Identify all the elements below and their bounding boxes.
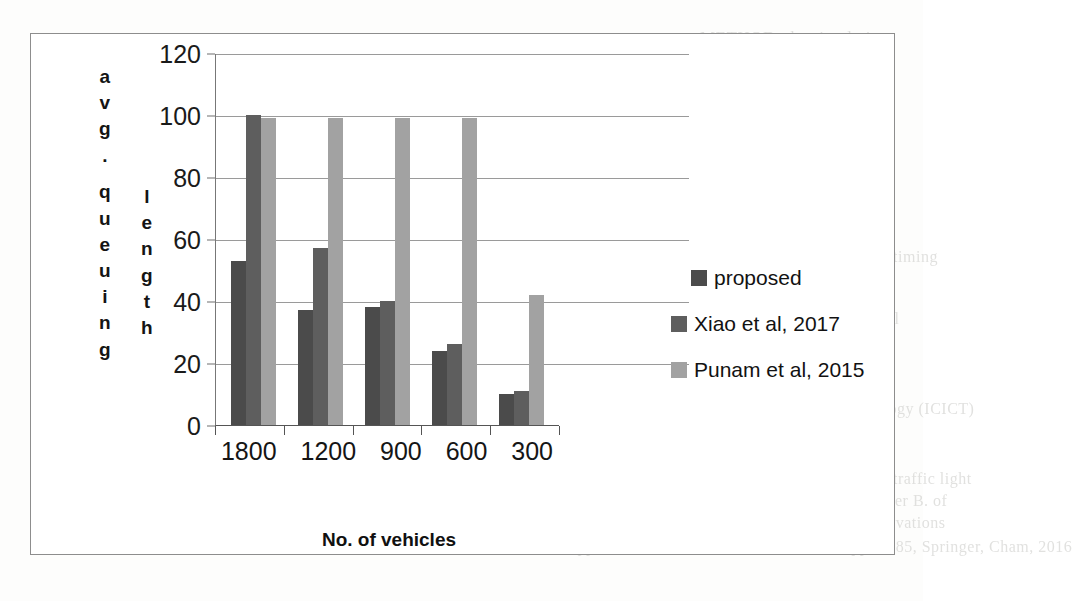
y-axis-title-letter: l [144,184,149,210]
bar [328,118,343,425]
y-axis-tick-mark [207,178,215,179]
legend-item[interactable]: Punam et al, 2015 [671,358,864,382]
bar [499,394,514,425]
y-axis-title-letter: g [99,337,111,363]
y-axis-tick-label: 120 [159,40,201,69]
y-axis-tick-mark [207,240,215,241]
bar-group [365,54,410,425]
y-axis-title-letter: e [100,232,111,258]
bar [529,295,544,425]
y-axis-title-letter: t [144,289,150,315]
legend-label: Xiao et al, 2017 [694,312,840,336]
y-axis-title-letter: n [99,310,111,336]
y-axis-title-letter: u [99,258,111,284]
bar-groups [216,54,559,425]
y-axis-title-column-1: avg. queuing [99,64,111,363]
x-axis-category-label: 900 [380,437,422,466]
x-axis-tick-mark [559,426,560,435]
y-axis-tick-label: 80 [173,164,201,193]
plot-area-wrapper: 020406080100120 18001200900600300 [159,54,619,494]
bar [313,248,328,425]
bar [298,310,313,425]
y-axis-tick-mark [207,364,215,365]
y-axis-tick-label: 60 [173,226,201,255]
x-axis-labels: 18001200900600300 [209,437,565,466]
y-axis-tick-mark [207,426,215,427]
x-axis-tick-mark [353,426,354,435]
y-axis-title-letter: g [99,116,111,142]
bar-group [231,54,276,425]
y-axis-tick-mark [207,302,215,303]
y-axis-title-letter [102,169,107,179]
chart-legend: proposedXiao et al, 2017Punam et al, 201… [671,266,864,382]
y-axis-tick-mark [207,54,215,55]
y-axis-tick-label: 40 [173,288,201,317]
y-axis-tick-mark [207,116,215,117]
x-axis-tick-mark [215,426,216,435]
chart-frame: avg. queuing length 020406080100120 1800… [30,33,895,555]
bar [462,118,477,425]
bar-group [432,54,477,425]
x-axis-category-label: 300 [511,437,553,466]
legend-label: proposed [714,266,802,290]
y-axis-title-letter: i [102,284,107,310]
y-axis-title-letter: h [141,315,153,341]
legend-swatch-icon [691,270,707,286]
bar [231,261,246,425]
bar-group [499,54,544,425]
bar [432,351,447,425]
bar [447,344,462,425]
y-axis-title-letter: e [142,210,153,236]
bar [514,391,529,425]
x-axis-tick-mark [421,426,422,435]
legend-swatch-icon [671,316,687,332]
x-axis-category-label: 1800 [221,437,277,466]
legend-label: Punam et al, 2015 [694,358,864,382]
legend-swatch-icon [671,362,687,378]
bar [380,301,395,425]
y-axis-tick-label: 0 [187,412,201,441]
y-axis-title-letter: q [99,179,111,205]
x-axis-tick-mark [490,426,491,435]
bar [395,118,410,425]
y-axis-tick-label: 20 [173,350,201,379]
y-axis-title-column-2: length [141,184,153,341]
plot-area [215,54,559,426]
y-axis-title-letter: n [141,236,153,262]
y-axis-title-letter: u [99,206,111,232]
x-axis-category-label: 1200 [300,437,356,466]
bar [246,115,261,425]
x-axis-tick-mark [284,426,285,435]
bar-group [298,54,343,425]
legend-item[interactable]: Xiao et al, 2017 [671,312,864,336]
x-axis-category-label: 600 [446,437,488,466]
x-axis-title: No. of vehicles [159,529,619,551]
y-axis-tick-label: 100 [159,102,201,131]
x-axis-ticks [215,426,559,436]
bar [365,307,380,425]
bar [261,118,276,425]
y-axis-title-letter: v [100,90,111,116]
y-axis-title-letter: a [100,64,111,90]
y-axis-ticks: 020406080100120 [159,54,207,426]
y-axis-title-letter: g [141,263,153,289]
legend-item[interactable]: proposed [691,266,864,290]
